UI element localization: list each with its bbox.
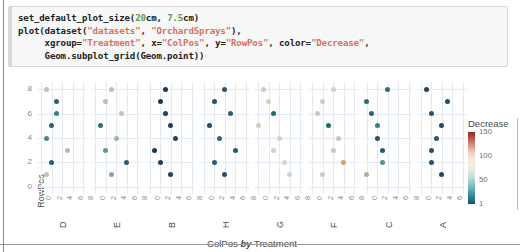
gridline-vertical [409,82,410,194]
panel-plot-area [38,82,86,194]
gridline-vertical [225,82,226,194]
gridline-vertical [452,82,453,194]
x-tick-label: 0 [424,186,433,200]
y-tick-label: 8 [16,85,32,93]
x-tick-label: 4 [228,186,237,200]
x-tick-label: 6 [238,186,247,200]
data-point [375,123,380,128]
colorbar-tick-label: 1 [479,200,483,208]
data-point [261,87,266,92]
data-point [439,123,444,128]
colorbar-tick-label: 100 [479,152,492,160]
data-point [103,148,108,153]
gridline-vertical [95,82,96,194]
x-tick-label: 8 [195,186,204,200]
panel-plot-area [92,82,140,194]
x-tick-label: 6 [347,186,356,200]
code-token: , x= [140,38,161,48]
x-tick-label: 2 [163,186,172,200]
gridline-vertical [388,82,389,194]
code-token: plot(dataset( [18,26,87,36]
facet-header-label: H [221,204,231,228]
data-point [320,99,325,104]
data-point [152,148,157,153]
facet-panel [309,82,357,194]
x-tick-label: 8 [249,186,258,200]
y-tick-label: 6 [16,110,32,118]
x-tick-label: 8 [140,186,149,200]
gridline-vertical [62,82,63,194]
data-point [54,111,59,116]
code-token: "datasets" [87,26,140,36]
x-tick-label: 2 [380,186,389,200]
gridline-vertical [312,82,313,194]
gridline-vertical [204,82,205,194]
x-tick-label: 8 [86,186,95,200]
data-point [124,160,129,165]
color-legend: Decrease 150100501 [462,118,520,210]
code-token: , [140,26,151,36]
x-tick-label: 4 [391,186,400,200]
data-point [114,136,119,141]
x-tick-label: 4 [174,186,183,200]
notebook-left-rule [3,0,4,252]
data-point [109,87,114,92]
data-point [287,172,292,177]
gridline-vertical [171,82,172,194]
data-point [277,136,282,141]
data-point [217,136,222,141]
data-point [207,123,212,128]
x-tick-label: 2 [55,186,64,200]
gridline-vertical [127,82,128,194]
gridline-vertical [150,82,151,194]
x-tick-label: 0 [44,186,53,200]
panel-plot-area [201,82,249,194]
x-tick-label: 6 [293,186,302,200]
data-point [331,87,336,92]
x-tick-label: 4 [445,186,454,200]
x-tick-label: 8 [357,186,366,200]
data-point [424,87,429,92]
code-token: xgroup= [18,38,82,48]
facet-header-label: D [58,204,68,228]
colorbar-tick-label: 150 [479,128,492,136]
gridline-vertical [258,82,259,194]
x-tick-label: 0 [261,186,270,200]
code-token: "ColPos" [162,38,205,48]
code-cell[interactable]: set_default_plot_size(20cm, 7.5cm)plot(d… [8,6,508,67]
code-line: plot(dataset("datasets", "OrchardSprays"… [18,25,503,38]
facet-panel [364,82,412,194]
code-token: "OrchardSprays" [151,26,231,36]
x-tick-label: 0 [315,186,324,200]
panel-plot-area [364,82,412,194]
data-point [168,172,173,177]
y-tick-label: 2 [16,158,32,166]
facet-header-label: B [167,204,177,228]
x-tick-label: 0 [370,186,379,200]
code-token: "Treatment" [82,38,141,48]
code-token: "Decrease" [311,38,364,48]
gridline-vertical [235,82,236,194]
gridline-vertical [52,82,53,194]
data-point [336,136,341,141]
x-tick-label: 0 [153,186,162,200]
x-tick-label: 4 [65,186,74,200]
data-point [429,160,434,165]
data-point [44,136,49,141]
panel-plot-area [255,82,303,194]
x-tick-label: 6 [130,186,139,200]
code-text[interactable]: set_default_plot_size(20cm, 7.5cm)plot(d… [18,12,503,62]
data-point [315,111,320,116]
facet-panels [38,82,466,194]
facet-panel [147,82,195,194]
x-tick-label: 6 [76,186,85,200]
data-point [375,136,380,141]
facet-panel [418,82,466,194]
data-point [282,160,287,165]
x-tick-label: 0 [98,186,107,200]
data-point [380,160,385,165]
facet-header-label: C [384,204,394,228]
x-tick-label: 6 [184,186,193,200]
x-tick-label: 2 [109,186,118,200]
data-point [369,111,374,116]
